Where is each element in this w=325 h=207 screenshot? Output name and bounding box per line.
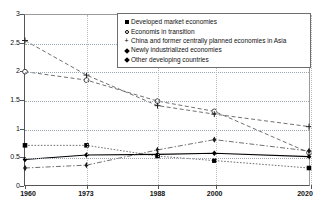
legend-item-label: Other developing countries [131, 55, 209, 64]
x-gridline [311, 15, 312, 185]
y-axis-tick-label: 0 [0, 182, 20, 189]
chart-legend: Developed market economiesEconomis in tr… [117, 13, 311, 68]
x-axis-tick-label: 2020 [297, 190, 313, 197]
legend-item-label: Economis in transition [131, 27, 195, 36]
y-axis-tick-mark [20, 186, 24, 187]
data-series [23, 150, 312, 162]
x-axis-tick-mark [216, 185, 217, 189]
chart-figure: 00.511.522.53 Developed market economies… [0, 0, 325, 207]
open-circle-marker [122, 27, 131, 36]
x-axis-tick-label: 2000 [207, 190, 223, 197]
x-axis-tick-mark [87, 185, 88, 189]
x-axis-tick-mark [158, 185, 159, 189]
y-axis-tick-label: 0.5 [0, 153, 20, 160]
gridline [25, 72, 309, 73]
legend-item: Developed market economies [122, 17, 306, 26]
x-axis-tick-mark [311, 185, 312, 189]
filled-square-marker [122, 17, 131, 26]
plus-marker: + [122, 36, 131, 45]
gridline [25, 101, 309, 102]
y-axis-tick-label: 1 [0, 125, 20, 132]
data-series [23, 69, 312, 155]
legend-item: Newly industrialized economies [122, 45, 306, 54]
y-axis-tick-label: 2 [0, 67, 20, 74]
x-axis-tick-label: 1973 [78, 190, 94, 197]
x-gridline [87, 15, 88, 185]
x-axis-tick-label: 1988 [150, 190, 166, 197]
gridline [25, 130, 309, 131]
sharp-diamond-marker [122, 55, 131, 64]
legend-item: Other developing countries [122, 55, 306, 64]
legend-item-label: Developed market economies [131, 17, 217, 26]
y-axis-tick-label: 3 [0, 10, 20, 17]
legend-item-label: China and former centrally planned econo… [131, 36, 286, 45]
x-axis-tick-label: 1960 [20, 190, 36, 197]
legend-item: Economis in transition [122, 26, 306, 35]
y-axis-tick-label: 2.5 [0, 39, 20, 46]
y-axis: 00.511.522.53 [0, 14, 24, 186]
x-axis-tick-mark [25, 185, 26, 189]
diamond-marker [122, 45, 131, 54]
legend-item-label: Newly industrialized economies [131, 45, 222, 54]
legend-item: +China and former centrally planned econ… [122, 36, 306, 45]
y-axis-tick-label: 1.5 [0, 96, 20, 103]
gridline [25, 158, 309, 159]
